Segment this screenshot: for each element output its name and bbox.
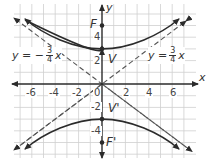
y-tick: -2: [90, 102, 102, 112]
focus-bottom-point: [100, 140, 105, 145]
vertex-top-label: V: [108, 53, 116, 65]
x-tick: 2: [122, 88, 130, 98]
asymptote-positive: [20, 21, 186, 146]
vertex-top-point: [100, 47, 105, 52]
vertex-bottom-label: V': [108, 102, 120, 114]
asymptote-negative-label: y = − 3 4 x: [12, 47, 62, 64]
x-tick: -6: [25, 88, 37, 98]
x-axis-label: x: [199, 72, 206, 83]
y-tick: -4: [90, 126, 102, 136]
equation-suffix: x: [55, 50, 62, 61]
x-tick: -2: [71, 88, 83, 98]
focus-top-label: F: [90, 18, 97, 30]
x-tick: 6: [169, 88, 177, 98]
x-tick: 0: [93, 88, 101, 98]
denominator: 4: [47, 56, 52, 64]
focus-bottom-label: F': [106, 136, 116, 148]
fraction: 3 4: [46, 47, 53, 64]
asymptote-positive-label: y = 3 4 x: [148, 47, 185, 64]
hyperbola-graph: [0, 0, 210, 162]
y-tick: 4: [93, 32, 101, 42]
equation-prefix: y =: [148, 50, 167, 61]
fraction: 3 4: [169, 47, 176, 64]
y-tick: 2: [93, 56, 101, 66]
equation-suffix: x: [178, 50, 185, 61]
vertex-bottom-point: [100, 117, 105, 122]
y-axis-label: y: [106, 2, 113, 13]
denominator: 4: [170, 56, 175, 64]
x-tick: 4: [145, 88, 153, 98]
equation-prefix: y = −: [12, 50, 44, 61]
focus-top-point: [100, 23, 105, 28]
x-tick: -4: [48, 88, 60, 98]
